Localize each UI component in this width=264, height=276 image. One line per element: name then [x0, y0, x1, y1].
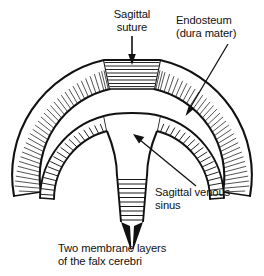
endosteum-label-line2: (dura mater)	[176, 27, 237, 39]
sagittal-suture-label-line1: Sagittal	[114, 8, 151, 20]
label-sagittal-suture: Sagittal suture	[114, 8, 151, 33]
endosteum-label-line1: Endosteum	[176, 14, 232, 26]
sagittal-suture-label-line2: suture	[117, 21, 148, 33]
sagittal-venous-sinus-label-line2: sinus	[155, 199, 181, 211]
cranial-cross-section-diagram: Sagittal suture Endosteum (dura mater) S…	[0, 0, 264, 276]
label-endosteum: Endosteum (dura mater)	[176, 14, 237, 39]
anatomy-figure: Sagittal suture Endosteum (dura mater) S…	[0, 0, 264, 276]
sagittal-venous-sinus-label-line1: Sagittal venous	[155, 186, 231, 198]
falx-cerebri-label-line2: of the falx cerebri	[58, 255, 142, 267]
falx-cerebri-label-line1: Two membrane layers	[58, 242, 167, 254]
falx-cerebri-strip	[112, 175, 152, 252]
sagittal-venous-sinus-cavity	[104, 113, 160, 176]
label-falx-cerebri: Two membrane layers of the falx cerebri	[58, 242, 167, 267]
